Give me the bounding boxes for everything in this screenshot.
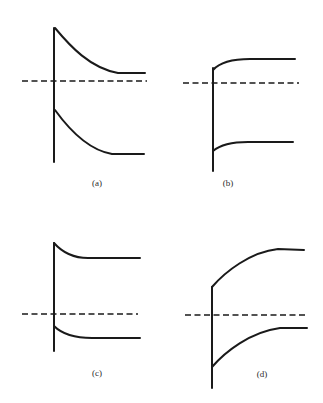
band-diagram-figure: (a) (b) (c) (d)	[0, 0, 323, 403]
upper-band-curve	[55, 28, 145, 73]
panel-label: (a)	[92, 178, 102, 188]
upper-band-curve	[213, 59, 295, 70]
upper-band-curve	[54, 243, 140, 258]
lower-band-curve	[54, 326, 140, 338]
panel-label: (c)	[92, 368, 102, 378]
panel-a: (a)	[22, 28, 147, 188]
panel-d: (d)	[185, 249, 307, 388]
lower-band-curve	[212, 328, 307, 367]
panel-label: (b)	[223, 178, 234, 188]
panel-b: (b)	[183, 59, 299, 188]
lower-band-curve	[213, 142, 293, 151]
panel-c: (c)	[22, 243, 140, 378]
lower-band-curve	[55, 110, 144, 154]
upper-band-curve	[212, 249, 304, 287]
panel-label: (d)	[257, 369, 268, 379]
